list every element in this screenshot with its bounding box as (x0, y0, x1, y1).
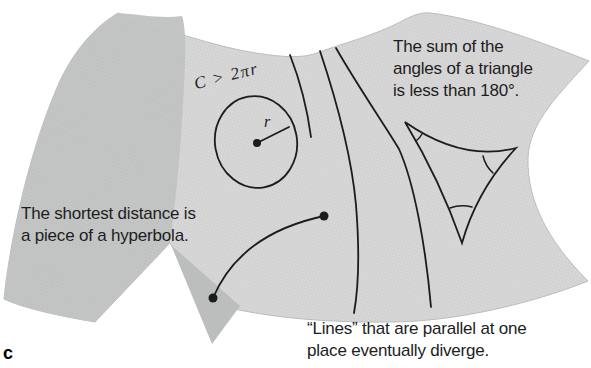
parallel-note: “Lines” that are parallel at one place e… (307, 318, 526, 362)
geodesic-note-line-2: a piece of a hyperbola. (21, 225, 196, 247)
geodesic-note: The shortest distance is a piece of a hy… (21, 203, 196, 247)
parallel-note-line-1: “Lines” that are parallel at one (307, 318, 526, 340)
geodesic-endpoint-dot-right (320, 212, 329, 221)
geodesic-endpoint-dot-left (209, 294, 218, 303)
triangle-note-line-1: The sum of the (393, 36, 533, 58)
parallel-note-line-2: place eventually diverge. (307, 340, 526, 362)
triangle-note-line-3: is less than 180°. (393, 80, 533, 102)
radius-label: r (264, 113, 270, 131)
triangle-note: The sum of the angles of a triangle is l… (393, 36, 533, 102)
figure-canvas: The sum of the angles of a triangle is l… (0, 0, 591, 368)
panel-label: c (3, 343, 13, 364)
circle-center-dot (253, 139, 261, 147)
triangle-note-line-2: angles of a triangle (393, 58, 533, 80)
geodesic-note-line-1: The shortest distance is (21, 203, 196, 225)
